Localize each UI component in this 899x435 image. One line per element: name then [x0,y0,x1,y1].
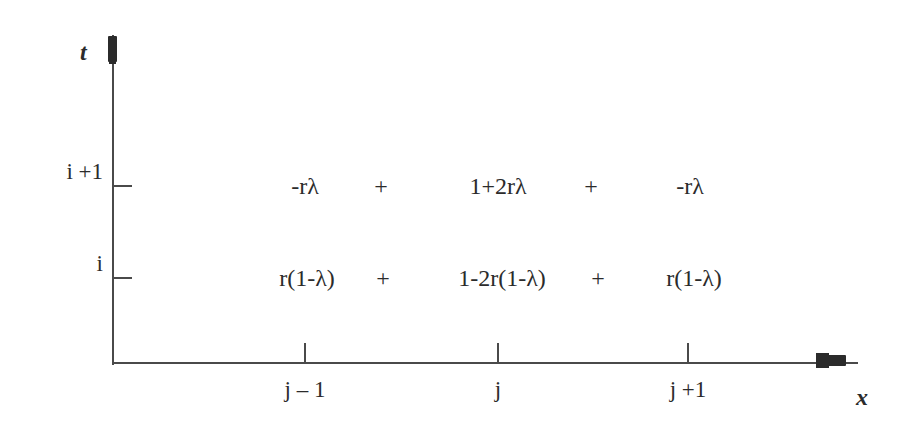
x-axis-tick-j-plus-1 [687,343,689,363]
x-axis-tick-label-j-plus-1: j +1 [608,378,768,401]
stencil-cell: 1-2r(1-λ) [458,261,546,295]
stencil-cell: r(1-λ) [666,261,722,295]
x-axis-tick-j-minus-1 [304,343,306,363]
x-axis-label: x [856,385,868,409]
stencil-cell: -rλ [676,169,704,203]
stencil-cell: -rλ [291,169,319,203]
x-axis-line [112,362,858,364]
stencil-cell: r(1-λ) [279,261,335,295]
x-axis-tick-label-j-minus-1: j – 1 [225,378,385,401]
stencil-operator: + [584,169,598,203]
x-axis-tick-label-j: j [418,378,578,401]
x-axis-arrow-icon [816,355,846,366]
stencil-operator: + [591,261,605,295]
x-axis-tick-j [497,343,499,363]
t-axis-label: t [80,40,87,64]
stencil-row-i-plus-1: -rλ + 1+2rλ + -rλ [0,169,760,203]
stencil-cell: 1+2rλ [469,169,526,203]
t-axis-arrow-icon [108,36,117,62]
stencil-row-i: r(1-λ) + 1-2r(1-λ) + r(1-λ) [0,261,760,295]
stencil-operator: + [374,169,388,203]
stencil-figure: t x i +1 i j – 1 j j +1 -rλ + 1+2rλ + -r… [0,0,899,435]
stencil-operator: + [376,261,390,295]
